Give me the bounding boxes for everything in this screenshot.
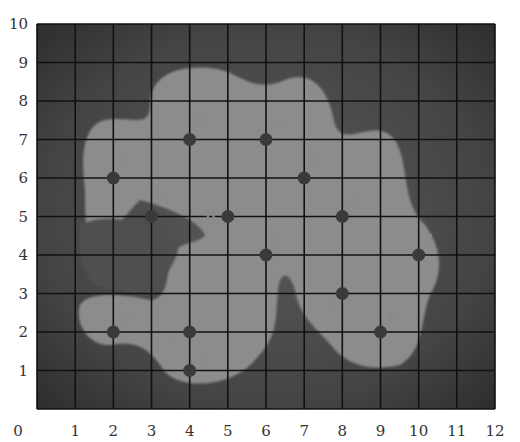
point-marker-icon[interactable]	[183, 364, 196, 377]
point-marker-icon[interactable]	[336, 210, 349, 223]
x-tick-label: 1	[70, 422, 80, 440]
x-tick-label: 4	[185, 422, 195, 440]
point-label: M	[118, 312, 131, 326]
point-label: B	[120, 154, 130, 168]
point-label: L	[311, 156, 320, 170]
point-label: K	[196, 115, 207, 129]
point-label: N	[159, 194, 170, 208]
point-marker-icon[interactable]	[107, 326, 120, 339]
x-tick-label: 2	[109, 422, 119, 440]
point-marker-icon[interactable]	[374, 326, 387, 339]
y-tick-label: 8	[18, 92, 28, 110]
point-label: F	[388, 312, 397, 326]
y-tick-label: 4	[18, 246, 28, 264]
x-tick-label: 11	[447, 422, 466, 440]
x-tick-label: 5	[223, 422, 233, 440]
point-label: I	[427, 233, 433, 247]
y-tick-label: 6	[18, 169, 28, 187]
point-label: J	[203, 352, 210, 366]
point-marker-icon[interactable]	[107, 172, 120, 185]
x-axis-ticks: 0123456789101112	[13, 422, 504, 440]
grid-map: 0123456789101112 12345678910 ABCDEFGHIJK…	[0, 0, 520, 442]
y-tick-label: 5	[18, 208, 28, 226]
point-marker-icon[interactable]	[260, 249, 273, 262]
point-marker-icon[interactable]	[260, 133, 273, 146]
y-tick-label: 10	[9, 15, 28, 33]
x-tick-label: 7	[299, 422, 309, 440]
point-marker-icon[interactable]	[336, 287, 349, 300]
y-axis-ticks: 12345678910	[9, 15, 28, 380]
y-tick-label: 3	[18, 285, 28, 303]
point-label: E	[349, 196, 358, 210]
point-label: H	[205, 208, 216, 222]
x-tick-label: 3	[147, 422, 157, 440]
y-tick-label: 7	[18, 131, 28, 149]
point-label: G	[272, 117, 282, 131]
point-marker-icon[interactable]	[183, 133, 196, 146]
x-tick-label: 12	[485, 422, 504, 440]
x-tick-label: 8	[338, 422, 348, 440]
point-label: D	[326, 300, 336, 314]
y-tick-label: 2	[18, 323, 28, 341]
x-tick-label: 0	[13, 422, 23, 440]
point-label: A	[167, 333, 178, 347]
x-tick-label: 9	[376, 422, 386, 440]
x-tick-label: 6	[261, 422, 271, 440]
y-tick-label: 1	[18, 362, 28, 380]
point-marker-icon[interactable]	[412, 249, 425, 262]
point-marker-icon[interactable]	[183, 326, 196, 339]
y-tick-label: 9	[18, 54, 28, 72]
point-marker-icon[interactable]	[145, 210, 158, 223]
point-marker-icon[interactable]	[298, 172, 311, 185]
x-tick-label: 10	[409, 422, 428, 440]
point-label: C	[271, 235, 281, 249]
point-marker-icon[interactable]	[221, 210, 234, 223]
